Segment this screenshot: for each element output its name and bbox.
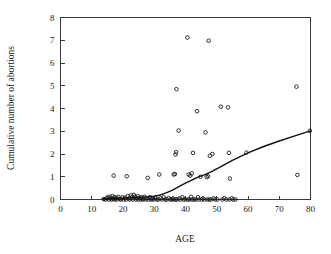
y-tick-label-3: 3: [50, 126, 55, 136]
data-point: [207, 39, 211, 43]
y-tick-label-0: 0: [50, 195, 55, 205]
y-tick-label-6: 6: [50, 58, 55, 68]
data-point: [295, 85, 299, 89]
x-tick-label-70: 70: [275, 204, 285, 214]
x-tick-labels: 01020304050607080: [58, 204, 315, 214]
data-point: [186, 36, 190, 40]
y-tick-label-2: 2: [50, 149, 55, 159]
data-point: [125, 174, 129, 178]
data-point: [219, 105, 223, 109]
data-point: [228, 177, 232, 181]
x-tick-label-10: 10: [87, 204, 97, 214]
data-point: [204, 131, 208, 135]
data-point: [177, 129, 181, 133]
data-point: [296, 173, 300, 177]
x-tick-label-50: 50: [212, 204, 222, 214]
y-tick-label-1: 1: [50, 172, 55, 182]
data-point: [112, 174, 116, 178]
y-axis-title: Cumulative number of abortions: [6, 46, 16, 170]
y-tick-label-8: 8: [50, 13, 55, 23]
data-point: [174, 150, 178, 154]
data-points: [102, 36, 312, 202]
fit-curve: [103, 131, 311, 199]
x-axis-title: AGE: [175, 234, 195, 244]
data-point: [227, 151, 231, 155]
data-point: [175, 87, 179, 91]
scatter-plot-figure: 01020304050607080 012345678 AGE Cumulati…: [0, 0, 331, 254]
y-tick-label-7: 7: [50, 35, 55, 45]
x-tick-label-0: 0: [58, 204, 63, 214]
x-tick-label-30: 30: [150, 204, 160, 214]
data-point: [195, 109, 199, 113]
x-tick-label-80: 80: [306, 204, 316, 214]
data-point: [191, 151, 195, 155]
plot-frame: [61, 18, 311, 200]
y-tick-labels: 012345678: [50, 13, 55, 205]
y-tick-label-5: 5: [50, 81, 55, 91]
y-axis-ticks: [61, 18, 65, 200]
data-point: [146, 176, 150, 180]
x-tick-label-60: 60: [244, 204, 254, 214]
x-tick-label-40: 40: [181, 204, 191, 214]
plot-canvas: 01020304050607080 012345678 AGE Cumulati…: [0, 0, 331, 254]
data-point: [157, 173, 161, 177]
y-tick-label-4: 4: [50, 104, 55, 114]
data-point: [226, 106, 230, 110]
fit-curve-path: [103, 131, 311, 199]
x-tick-label-20: 20: [119, 204, 129, 214]
